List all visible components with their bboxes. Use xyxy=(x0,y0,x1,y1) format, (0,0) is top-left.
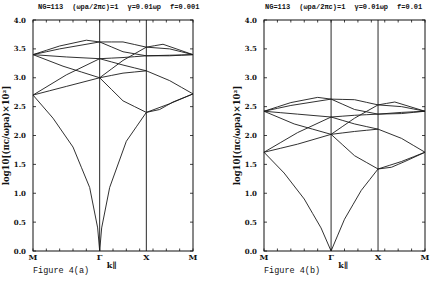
band-curve xyxy=(264,152,331,251)
band-curve xyxy=(264,111,331,117)
y-tick-label: 3.0 xyxy=(245,73,257,82)
band-structure-chart-b: 0.00.51.01.52.02.53.03.54.0MΓXMk∥log10[(… xyxy=(0,0,439,289)
x-symmetry-label: Γ xyxy=(328,252,334,262)
y-tick-label: 3.5 xyxy=(245,44,257,53)
x-symmetry-label: X xyxy=(375,252,382,262)
band-curve xyxy=(264,111,331,134)
x-symmetry-label: M xyxy=(260,252,269,262)
y-tick-label: 1.0 xyxy=(245,189,257,198)
figure-4b-caption: Figure 4(b) xyxy=(264,266,320,276)
y-tick-label: 4.0 xyxy=(245,16,257,25)
y-tick-label: 2.0 xyxy=(245,131,257,140)
y-axis-label: log10[(πc/ωpa)×10²] xyxy=(232,86,242,185)
band-curve xyxy=(264,117,331,152)
x-axis-label: k∥ xyxy=(338,260,348,270)
plot-frame xyxy=(264,20,425,251)
y-tick-label: 2.5 xyxy=(245,102,257,111)
x-symmetry-label: M xyxy=(421,252,430,262)
y-tick-label: 0.0 xyxy=(245,247,257,256)
band-curve xyxy=(264,134,331,152)
band-curve xyxy=(331,169,378,251)
y-tick-label: 0.5 xyxy=(245,218,257,227)
y-tick-label: 1.5 xyxy=(245,160,257,169)
figure-4b-panel: NG=113(ωpa/2πc)=1γ=0.01ωpf=0.01 0.00.51.… xyxy=(0,0,439,289)
